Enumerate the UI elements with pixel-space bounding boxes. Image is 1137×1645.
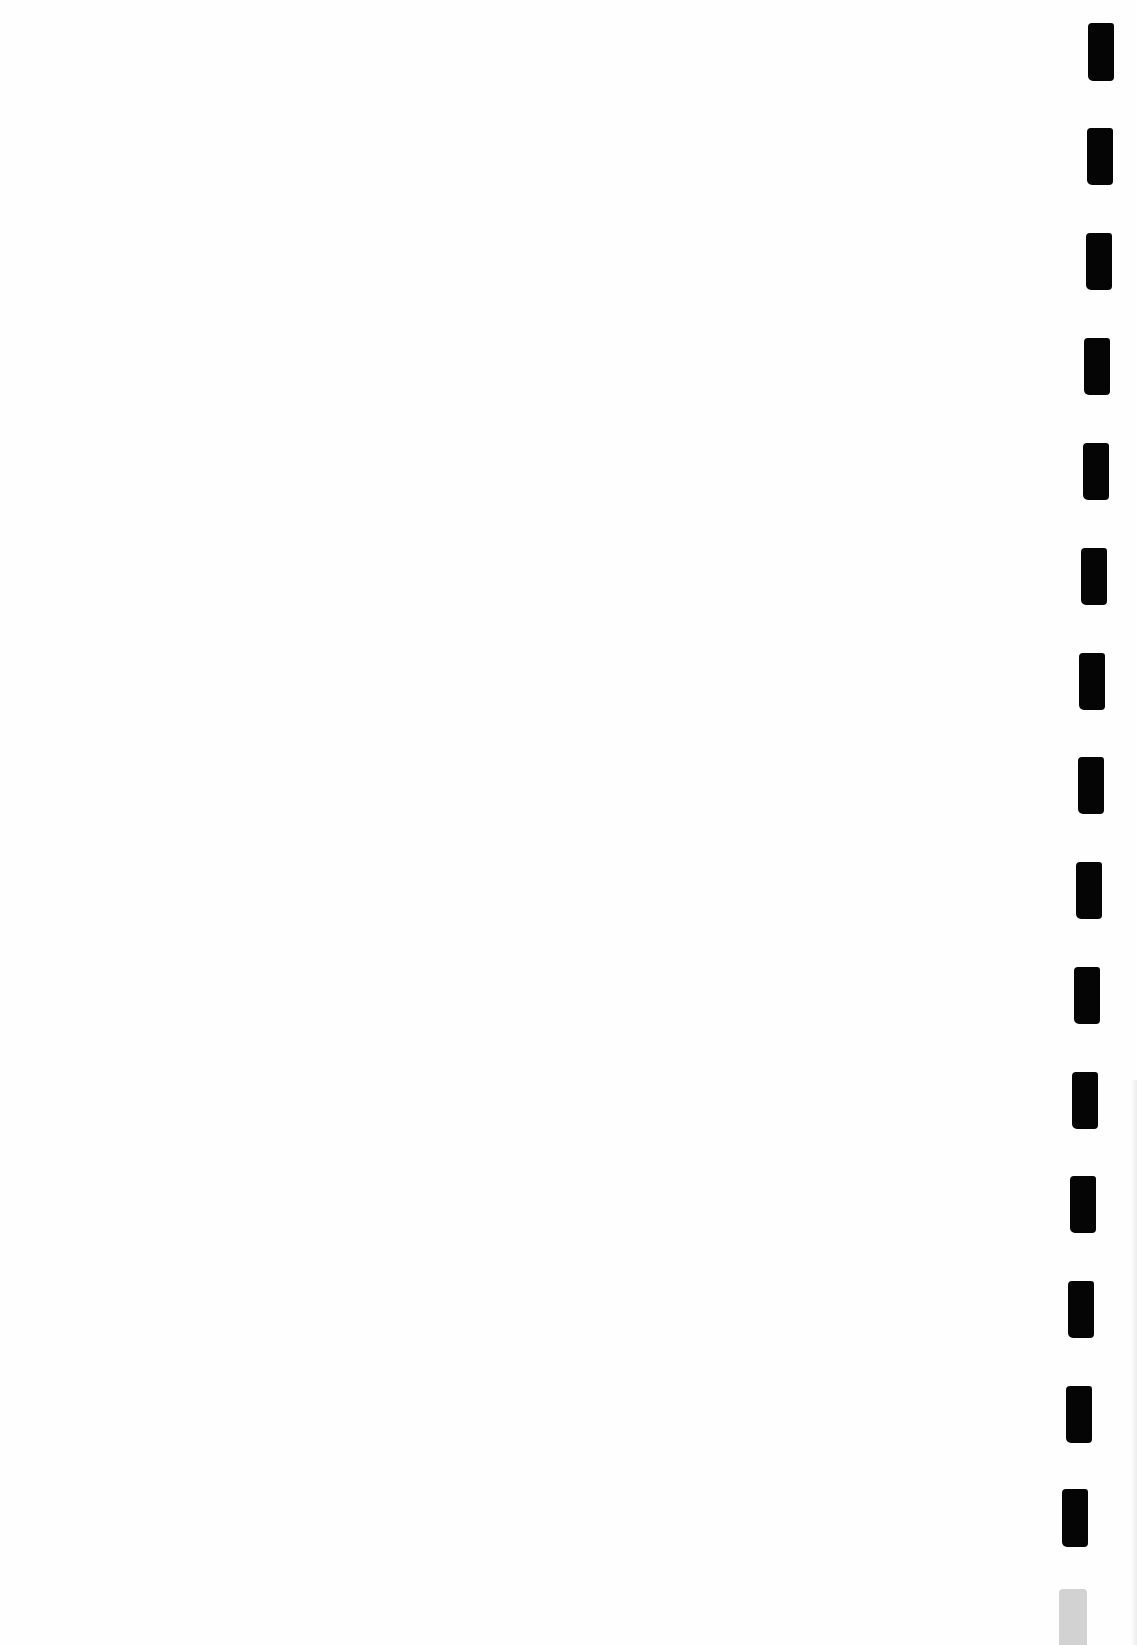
timing-mark <box>1062 1489 1088 1547</box>
timing-mark <box>1066 1386 1092 1443</box>
page-edge-shadow <box>1131 1080 1137 1645</box>
timing-mark <box>1087 128 1113 185</box>
timing-mark <box>1068 1281 1094 1338</box>
timing-mark <box>1078 757 1104 814</box>
blank-document-page <box>0 0 1137 1645</box>
timing-mark <box>1076 862 1102 919</box>
timing-mark <box>1088 23 1114 81</box>
timing-mark <box>1081 548 1107 605</box>
timing-mark <box>1084 338 1110 395</box>
faded-timing-mark <box>1059 1589 1087 1645</box>
timing-mark <box>1079 653 1105 710</box>
timing-mark <box>1086 233 1112 290</box>
timing-mark <box>1074 967 1100 1024</box>
timing-mark <box>1083 443 1109 500</box>
timing-mark <box>1070 1176 1096 1233</box>
timing-mark <box>1072 1072 1098 1129</box>
